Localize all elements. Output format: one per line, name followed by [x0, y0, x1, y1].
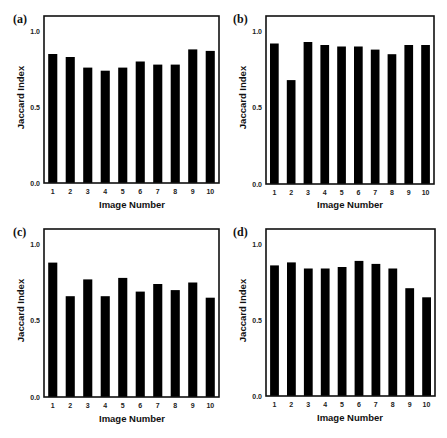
x-tick-label: 6: [138, 188, 142, 195]
panel-b: (b) Jaccard Index 123456789100.00.51.0 I…: [222, 0, 447, 219]
bar-image-3: [83, 68, 92, 183]
x-tick-label: 9: [407, 189, 411, 196]
x-tick-label: 1: [273, 401, 277, 408]
bar-image-4: [320, 45, 329, 184]
bar-image-10: [206, 51, 215, 183]
x-tick-label: 4: [103, 402, 107, 409]
bar-image-9: [404, 45, 413, 184]
bar-image-4: [101, 71, 110, 183]
panel-a: (a) Jaccard Index 123456789100.00.51.0 I…: [0, 0, 224, 219]
y-tick-label: 1.0: [30, 28, 40, 35]
x-tick-label: 10: [422, 189, 430, 196]
bar-image-7: [372, 264, 381, 396]
x-tick-label: 4: [323, 401, 327, 408]
bar-image-1: [270, 265, 279, 396]
x-tick-label: 8: [173, 402, 177, 409]
bar-image-9: [188, 49, 197, 183]
x-tick-label: 6: [356, 189, 360, 196]
x-tick-label: 10: [423, 401, 431, 408]
bar-image-5: [337, 47, 346, 185]
x-tick-label: 1: [51, 402, 55, 409]
y-tick-label: 1.0: [252, 241, 262, 248]
x-tick-label: 3: [86, 402, 90, 409]
x-tick-label: 5: [340, 401, 344, 408]
bar-image-7: [153, 65, 162, 183]
bar-image-4: [321, 269, 330, 397]
bar-image-8: [171, 65, 180, 183]
y-tick-label: 0.5: [252, 104, 262, 111]
y-tick-label: 0.0: [30, 180, 40, 187]
panel-c: (c) Jaccard Index 123456789100.00.51.0 I…: [0, 213, 224, 438]
bar-chart-a: 123456789100.00.51.0: [0, 0, 224, 219]
y-tick-label: 0.5: [30, 104, 40, 111]
x-tick-label: 3: [306, 189, 310, 196]
x-tick-label: 4: [103, 188, 107, 195]
bar-chart-d: 123456789100.00.51.0: [222, 213, 447, 438]
x-tick-label: 6: [138, 402, 142, 409]
x-axis-label-c: Image Number: [82, 413, 182, 424]
x-tick-label: 7: [373, 189, 377, 196]
bar-chart-c: 123456789100.00.51.0: [0, 213, 224, 438]
bar-image-7: [153, 284, 162, 397]
bar-image-8: [388, 54, 397, 184]
x-tick-label: 5: [340, 189, 344, 196]
bar-image-3: [304, 42, 313, 184]
x-tick-label: 1: [51, 188, 55, 195]
bar-image-1: [48, 263, 57, 397]
bar-image-2: [66, 296, 75, 397]
bar-image-4: [101, 296, 110, 397]
panel-d: (d) Jaccard Index 123456789100.00.51.0 I…: [222, 213, 447, 438]
bar-image-5: [338, 267, 347, 396]
x-tick-label: 10: [206, 402, 214, 409]
x-axis-label-b: Image Number: [300, 199, 400, 210]
bar-image-5: [118, 68, 127, 183]
x-tick-label: 9: [191, 402, 195, 409]
bar-image-3: [304, 269, 313, 397]
bar-image-1: [270, 44, 279, 185]
y-tick-label: 0.0: [252, 393, 262, 400]
bar-chart-b: 123456789100.00.51.0: [222, 0, 447, 219]
bar-image-9: [405, 288, 414, 396]
bar-image-5: [118, 278, 127, 397]
x-tick-label: 2: [68, 402, 72, 409]
x-tick-label: 10: [206, 188, 214, 195]
bar-image-2: [287, 262, 296, 396]
bar-image-8: [388, 269, 397, 397]
x-tick-label: 5: [121, 402, 125, 409]
y-tick-label: 0.0: [252, 181, 262, 188]
x-tick-label: 5: [121, 188, 125, 195]
x-tick-label: 3: [86, 188, 90, 195]
x-tick-label: 3: [306, 401, 310, 408]
bar-image-6: [136, 292, 145, 397]
x-tick-label: 7: [374, 401, 378, 408]
x-tick-label: 9: [408, 401, 412, 408]
y-tick-label: 0.5: [252, 317, 262, 324]
x-tick-label: 9: [191, 188, 195, 195]
x-tick-label: 2: [289, 401, 293, 408]
x-tick-label: 7: [156, 188, 160, 195]
bar-image-2: [66, 57, 75, 183]
bar-image-10: [422, 297, 431, 396]
bar-image-6: [355, 261, 364, 396]
bar-image-10: [421, 45, 430, 184]
x-tick-label: 2: [68, 188, 72, 195]
x-tick-label: 7: [156, 402, 160, 409]
bar-image-9: [188, 283, 197, 398]
x-axis-label-d: Image Number: [300, 412, 400, 423]
x-tick-label: 6: [357, 401, 361, 408]
bar-image-8: [171, 290, 180, 397]
y-tick-label: 1.0: [252, 28, 262, 35]
x-tick-label: 8: [173, 188, 177, 195]
bar-image-2: [287, 80, 296, 184]
y-tick-label: 0.0: [30, 394, 40, 401]
x-tick-label: 1: [272, 189, 276, 196]
bar-image-10: [206, 298, 215, 397]
x-tick-label: 8: [390, 189, 394, 196]
bar-image-3: [83, 279, 92, 397]
y-tick-label: 1.0: [30, 241, 40, 248]
bar-image-7: [371, 50, 380, 184]
x-tick-label: 4: [323, 189, 327, 196]
x-tick-label: 8: [391, 401, 395, 408]
bar-image-6: [136, 62, 145, 184]
bar-image-6: [354, 47, 363, 185]
